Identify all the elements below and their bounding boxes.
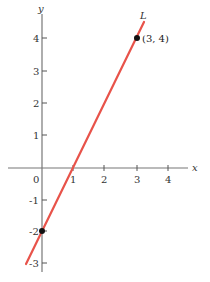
y-tick-label: 1 [33, 130, 39, 141]
x-tick-label: 1 [70, 174, 76, 185]
y-tick-label: -2 [29, 226, 39, 237]
y-tick-label: 3 [33, 66, 39, 77]
y-axis-label: y [37, 3, 44, 14]
chart-canvas: y x 1 2 3 4 0 4 3 2 1 -1 -2 -3 L (3, 4) [0, 0, 210, 282]
x-tick-label: 4 [165, 174, 171, 185]
y-tick-label: 2 [33, 98, 39, 109]
point-3-4 [134, 35, 140, 41]
line-label: L [139, 10, 147, 21]
x-tick-label: 2 [101, 174, 107, 185]
line-L [26, 22, 144, 264]
point-label: (3, 4) [142, 33, 169, 44]
y-tick-label: -1 [29, 195, 39, 206]
x-axis-label: x [192, 162, 198, 173]
origin-label: 0 [33, 174, 39, 185]
x-tick-label: 3 [134, 174, 140, 185]
y-tick-label: -3 [29, 258, 39, 269]
y-ticks: 4 3 2 1 -1 -2 -3 [29, 33, 47, 269]
y-tick-label: 4 [33, 33, 39, 44]
point-y-intercept [39, 228, 45, 234]
